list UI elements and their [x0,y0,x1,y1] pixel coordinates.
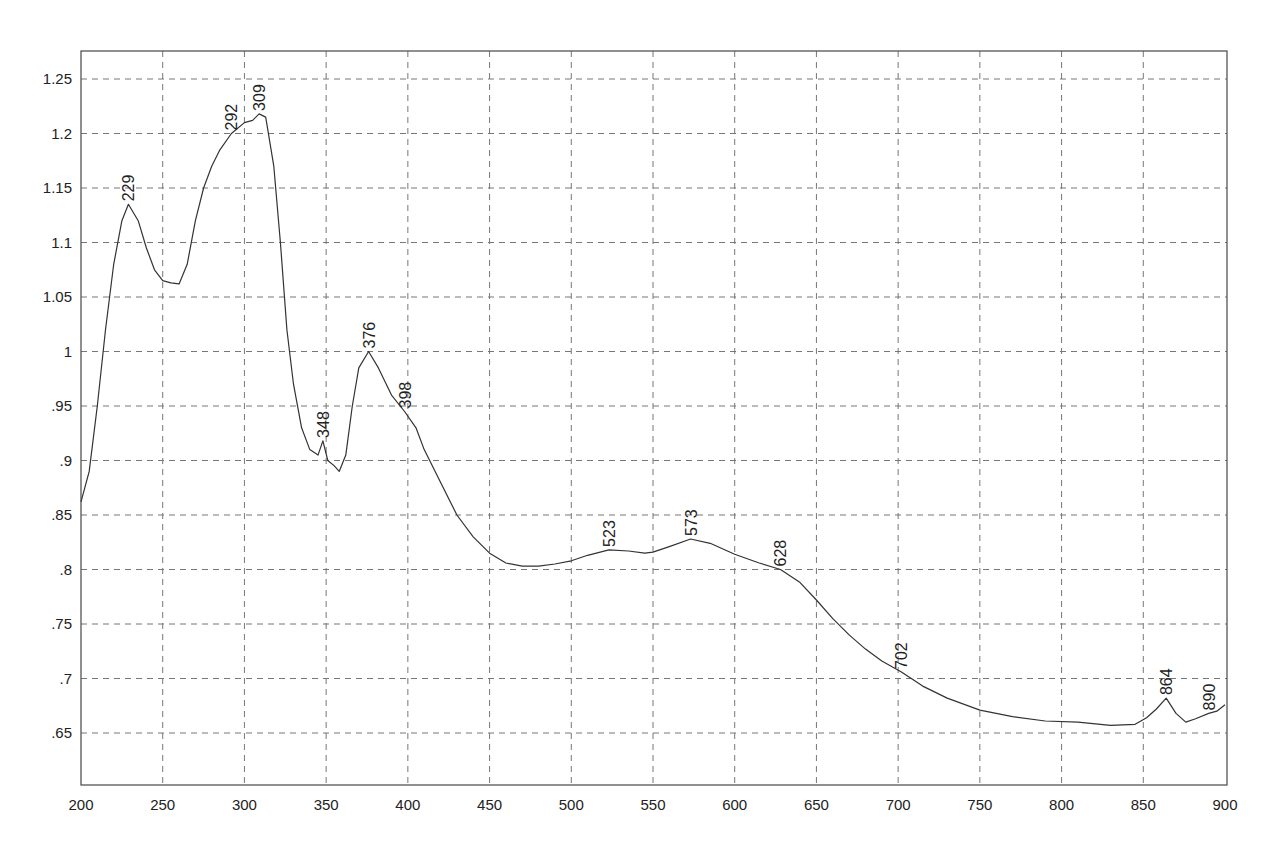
x-tick-label: 900 [1212,796,1237,813]
peak-label: 702 [893,642,910,669]
gridlines [81,51,1227,785]
x-tick-label: 850 [1131,796,1156,813]
x-tick-label: 700 [886,796,911,813]
absorbance-spectrum-chart: 1.251.21.151.11.051.95.9.85.8.75.7.65 20… [0,0,1273,855]
y-tick-label: .7 [59,670,72,687]
y-tick-label: .95 [51,397,72,414]
y-tick-label: 1.05 [43,288,72,305]
x-axis-tick-labels: 2002503003504004505005506006507007508008… [68,796,1237,813]
peak-label: 890 [1201,684,1218,711]
y-tick-label: 1 [64,343,72,360]
x-tick-label: 800 [1049,796,1074,813]
peak-label: 292 [223,104,240,131]
peak-label: 376 [361,322,378,349]
x-tick-label: 350 [314,796,339,813]
peak-labels: 229292309348376398523573628702864890 [120,84,1217,710]
x-tick-label: 450 [477,796,502,813]
peak-label: 864 [1158,668,1175,695]
x-tick-label: 550 [640,796,665,813]
plot-frame [81,51,1227,785]
x-tick-label: 200 [68,796,93,813]
peak-label: 573 [683,509,700,536]
y-tick-label: .85 [51,506,72,523]
y-tick-label: 1.25 [43,70,72,87]
y-tick-label: .75 [51,615,72,632]
x-tick-label: 650 [804,796,829,813]
y-tick-label: 1.15 [43,179,72,196]
x-tick-label: 250 [150,796,175,813]
y-tick-label: .9 [59,452,72,469]
x-tick-label: 400 [395,796,420,813]
y-tick-label: 1.1 [51,234,72,251]
x-tick-label: 600 [722,796,747,813]
x-tick-label: 750 [967,796,992,813]
peak-label: 348 [315,411,332,438]
y-tick-label: .65 [51,724,72,741]
y-tick-label: .8 [59,561,72,578]
x-tick-label: 500 [559,796,584,813]
x-tick-label: 300 [232,796,257,813]
y-tick-label: 1.2 [51,125,72,142]
peak-label: 229 [120,175,137,202]
peak-label: 523 [601,520,618,547]
y-axis-tick-labels: 1.251.21.151.11.051.95.9.85.8.75.7.65 [43,70,72,741]
peak-label: 398 [397,382,414,409]
peak-label: 309 [251,84,268,111]
peak-label: 628 [772,540,789,567]
